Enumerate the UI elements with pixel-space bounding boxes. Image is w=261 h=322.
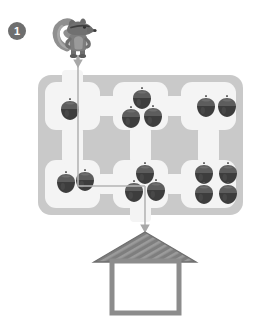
house-body	[112, 261, 179, 313]
maze-entrance	[62, 70, 83, 88]
maze-passage-r2-c2c3	[164, 174, 186, 194]
exercise-number-badge: 1	[8, 22, 26, 40]
maze-passage-c2-r1r2	[130, 126, 151, 164]
house	[94, 232, 196, 313]
maze-passage-r1-c1c2	[96, 96, 118, 116]
house-roof	[94, 232, 196, 262]
maze-exit	[130, 202, 151, 222]
maze-passage-r1-c2c3	[164, 96, 186, 116]
squirrel-foot-left	[70, 54, 77, 58]
maze-passage-c1-r1r2	[62, 126, 83, 164]
squirrel-belly	[74, 36, 83, 49]
maze-passage-c3-r1r2	[198, 126, 219, 164]
squirrel-ear-right	[80, 19, 86, 24]
squirrel	[56, 19, 96, 59]
puzzle-canvas: 1	[0, 0, 261, 322]
squirrel-nose	[93, 29, 96, 32]
squirrel-foot-right	[79, 54, 86, 58]
badge-label: 1	[14, 25, 20, 37]
maze-passage-r2-c1c2	[96, 174, 118, 194]
